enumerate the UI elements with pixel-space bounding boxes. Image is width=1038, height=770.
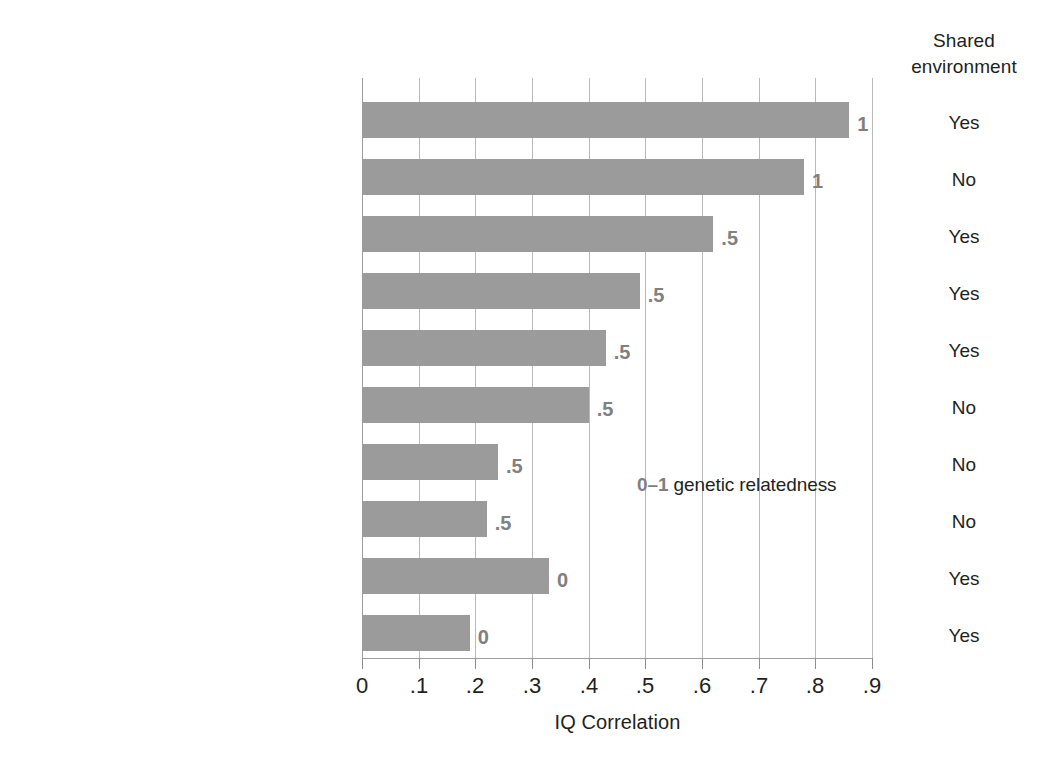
genetic-relatedness-annotation: 0–1 genetic relatedness [637, 474, 836, 496]
shared-environment-value: Yes [890, 340, 1038, 362]
bar-value-label: .5 [506, 455, 523, 478]
bar-value-label: 1 [812, 170, 823, 193]
bar-value-label: .5 [648, 284, 665, 307]
bar-value-label: 0 [557, 569, 568, 592]
shared-environment-value: Yes [890, 568, 1038, 590]
x-axis-tick-label: .4 [559, 673, 619, 699]
x-axis-tick [362, 658, 363, 669]
shared-environment-header: Shared environment [890, 28, 1038, 80]
x-axis-tick [872, 658, 873, 669]
x-axis-tick-label: .2 [445, 673, 505, 699]
x-axis-tick-label: 0 [332, 673, 392, 699]
shared-environment-value: No [890, 169, 1038, 191]
bar [362, 159, 804, 195]
x-axis-line [362, 658, 873, 659]
x-axis-tick [645, 658, 646, 669]
shared-environment-value: Yes [890, 226, 1038, 248]
x-axis-tick [815, 658, 816, 669]
shared-environment-header-line-1: Shared [890, 28, 1038, 54]
x-axis-title: IQ Correlation [362, 711, 873, 734]
x-axis-tick [589, 658, 590, 669]
x-axis-tick-label: .5 [615, 673, 675, 699]
x-axis-tick [759, 658, 760, 669]
bar-value-label: .5 [597, 398, 614, 421]
shared-environment-value: Yes [890, 112, 1038, 134]
bar-value-label: 0 [478, 626, 489, 649]
bar-value-label: .5 [721, 227, 738, 250]
gridline [815, 78, 816, 658]
bar [362, 330, 606, 366]
bar [362, 273, 640, 309]
x-axis-tick-label: .6 [672, 673, 732, 699]
shared-environment-value: No [890, 454, 1038, 476]
bar [362, 501, 487, 537]
bar-value-label: .5 [495, 512, 512, 535]
bar-value-label: .5 [614, 341, 631, 364]
bar [362, 216, 713, 252]
x-axis-tick-label: .9 [842, 673, 902, 699]
x-axis-tick [532, 658, 533, 669]
bar [362, 615, 470, 651]
x-axis-tick-label: .7 [729, 673, 789, 699]
gridline [872, 78, 873, 658]
bar-value-label: 1 [857, 113, 868, 136]
shared-environment-value: Yes [890, 625, 1038, 647]
shared-environment-value: Yes [890, 283, 1038, 305]
iq-correlation-chart: Shared environment Monozygotic twins (re… [0, 0, 1038, 770]
bar [362, 558, 549, 594]
x-axis-tick [419, 658, 420, 669]
x-axis-tick [702, 658, 703, 669]
relatedness-note-text: genetic relatedness [668, 474, 836, 495]
x-axis-tick-label: .1 [389, 673, 449, 699]
shared-environment-value: No [890, 511, 1038, 533]
relatedness-key-zero: 0 [637, 474, 647, 495]
shared-environment-value: No [890, 397, 1038, 419]
bar [362, 102, 849, 138]
x-axis-tick [475, 658, 476, 669]
x-axis-tick-label: .3 [502, 673, 562, 699]
relatedness-key-one: –1 [647, 474, 668, 495]
x-axis-tick-label: .8 [785, 673, 845, 699]
bar [362, 387, 589, 423]
bar [362, 444, 498, 480]
shared-environment-header-line-2: environment [890, 54, 1038, 80]
